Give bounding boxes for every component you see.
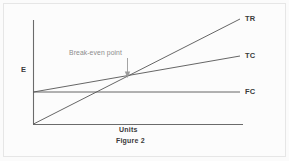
breakeven-point-label: Break-even point bbox=[69, 49, 122, 56]
y-axis-label: E bbox=[21, 65, 26, 74]
series-label-total-revenue: TR bbox=[245, 14, 255, 23]
figure-caption: Figure 2 bbox=[116, 137, 145, 144]
total-cost-line bbox=[34, 56, 241, 92]
total-revenue-line bbox=[34, 19, 241, 124]
figure-container: E TR TC FC Break-even point Units Figure… bbox=[0, 0, 289, 161]
series-label-fixed-cost: FC bbox=[245, 87, 255, 96]
x-axis-label: Units bbox=[119, 126, 138, 133]
series-label-total-cost: TC bbox=[245, 51, 255, 60]
